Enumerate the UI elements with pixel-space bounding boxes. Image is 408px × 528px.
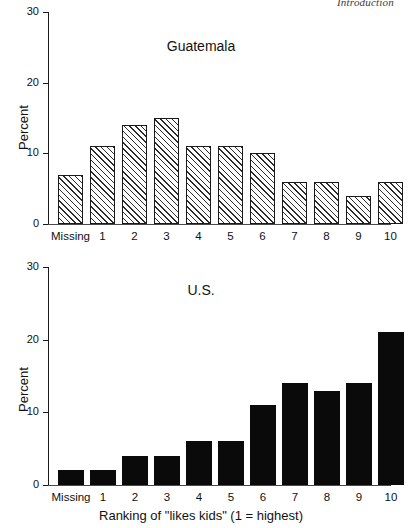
bar <box>346 383 372 485</box>
y-axis-tick-label: 10 <box>15 405 39 417</box>
y-axis-tick-label: 20 <box>15 333 39 345</box>
x-axis-label: Ranking of "likes kids" (1 = highest) <box>0 508 402 523</box>
y-axis-tick <box>43 485 48 486</box>
bar <box>250 405 276 485</box>
x-axis-tick-label: 10 <box>366 491 408 503</box>
y-axis-line <box>48 267 49 485</box>
bar <box>122 456 148 485</box>
y-axis-tick-label: 0 <box>15 478 39 490</box>
bar <box>154 456 180 485</box>
bar <box>58 470 84 485</box>
bar <box>314 391 340 485</box>
x-axis-line <box>48 485 391 486</box>
bar <box>378 332 404 485</box>
bar <box>282 383 308 485</box>
bar <box>90 470 116 485</box>
bar <box>186 441 212 485</box>
y-axis-tick <box>43 412 48 413</box>
plot-area-us: 0102030Missing12345678910 <box>48 267 391 485</box>
y-axis-tick-label: 30 <box>15 260 39 272</box>
y-axis-tick <box>43 267 48 268</box>
bar <box>218 441 244 485</box>
y-axis-tick <box>43 340 48 341</box>
